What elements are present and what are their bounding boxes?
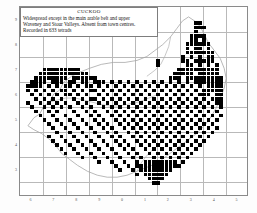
tetrad-dot bbox=[169, 76, 173, 80]
tetrad-dot bbox=[106, 93, 110, 97]
tetrad-dot bbox=[198, 110, 202, 114]
tetrad-dot bbox=[186, 47, 190, 51]
tetrad-dot bbox=[211, 131, 215, 135]
tetrad-dot bbox=[76, 84, 80, 88]
tetrad-dot bbox=[135, 164, 139, 168]
tetrad-dot bbox=[152, 156, 156, 160]
y-axis-tick-label: 7 bbox=[8, 67, 17, 72]
tetrad-dot bbox=[202, 42, 206, 46]
tetrad-dot bbox=[114, 101, 118, 105]
tetrad-dot bbox=[131, 135, 135, 139]
tetrad-dot bbox=[190, 38, 194, 42]
tetrad-dot bbox=[85, 76, 89, 80]
tetrad-dot bbox=[202, 72, 206, 76]
tetrad-dot bbox=[152, 164, 156, 168]
tetrad-dot bbox=[76, 68, 80, 72]
tetrad-dot bbox=[127, 131, 131, 135]
tetrad-dot bbox=[68, 143, 72, 147]
tetrad-dot bbox=[190, 34, 194, 38]
tetrad-dot bbox=[114, 139, 118, 143]
tetrad-dot bbox=[51, 139, 55, 143]
tetrad-dot bbox=[202, 139, 206, 143]
tetrad-dot bbox=[123, 139, 127, 143]
x-axis-tick-label: 2 bbox=[163, 197, 173, 202]
tetrad-dot bbox=[148, 135, 152, 139]
tetrad-dot bbox=[131, 93, 135, 97]
tetrad-dot bbox=[177, 76, 181, 80]
y-axis-tick-label: 3 bbox=[8, 167, 17, 172]
tetrad-dot bbox=[127, 105, 131, 109]
tetrad-dot bbox=[173, 135, 177, 139]
tetrad-dot bbox=[202, 26, 206, 30]
tetrad-dot bbox=[110, 126, 114, 130]
tetrad-dot bbox=[194, 47, 198, 51]
tetrad-dot bbox=[219, 93, 223, 97]
tetrad-dot bbox=[76, 76, 80, 80]
tetrad-dot bbox=[123, 101, 127, 105]
tetrad-dot bbox=[215, 110, 219, 114]
tetrad-dot bbox=[64, 72, 68, 76]
tetrad-dot bbox=[131, 118, 135, 122]
tetrad-dot bbox=[156, 93, 160, 97]
tetrad-dot bbox=[207, 84, 211, 88]
tetrad-dot bbox=[148, 143, 152, 147]
x-axis-tick-label: 4 bbox=[209, 197, 219, 202]
tetrad-dot bbox=[114, 84, 118, 88]
tetrad-dot bbox=[190, 101, 194, 105]
tetrad-dot bbox=[177, 72, 181, 76]
tetrad-dot bbox=[144, 139, 148, 143]
tetrad-dot bbox=[68, 68, 72, 72]
tetrad-dot bbox=[190, 143, 194, 147]
tetrad-dot bbox=[169, 156, 173, 160]
tetrad-dot bbox=[190, 76, 194, 80]
tetrad-dot bbox=[60, 97, 64, 101]
tetrad-dot bbox=[152, 147, 156, 151]
tetrad-dot bbox=[186, 114, 190, 118]
tetrad-dot bbox=[127, 89, 131, 93]
tetrad-dot bbox=[215, 76, 219, 80]
tetrad-dot bbox=[60, 76, 64, 80]
tetrad-dot bbox=[89, 152, 93, 156]
tetrad-dot bbox=[93, 89, 97, 93]
tetrad-dot bbox=[215, 101, 219, 105]
tetrad-dot bbox=[173, 84, 177, 88]
tetrad-dot bbox=[160, 122, 164, 126]
tetrad-dot bbox=[118, 114, 122, 118]
tetrad-dot bbox=[144, 173, 148, 177]
tetrad-dot bbox=[186, 76, 190, 80]
tetrad-dot bbox=[152, 173, 156, 177]
tetrad-dot bbox=[55, 143, 59, 147]
tetrad-dot bbox=[202, 122, 206, 126]
tetrad-dot bbox=[198, 76, 202, 80]
tetrad-dot bbox=[97, 135, 101, 139]
tetrad-dot bbox=[169, 80, 173, 84]
tetrad-dot bbox=[81, 131, 85, 135]
tetrad-dot bbox=[47, 68, 51, 72]
tetrad-dot bbox=[102, 105, 106, 109]
x-axis-tick-label: 9 bbox=[94, 197, 104, 202]
tetrad-dot bbox=[202, 34, 206, 38]
tetrad-dot bbox=[68, 80, 72, 84]
tetrad-dot bbox=[60, 89, 64, 93]
tetrad-dot bbox=[202, 76, 206, 80]
tetrad-dot bbox=[207, 118, 211, 122]
tetrad-dot bbox=[156, 168, 160, 172]
tetrad-dot bbox=[160, 80, 164, 84]
tetrad-dot bbox=[64, 84, 68, 88]
tetrad-dot bbox=[186, 42, 190, 46]
tetrad-dot bbox=[173, 72, 177, 76]
tetrad-dot bbox=[51, 72, 55, 76]
tetrad-dot bbox=[72, 76, 76, 80]
tetrad-dot bbox=[139, 84, 143, 88]
tetrad-dot bbox=[156, 143, 160, 147]
tetrad-dot bbox=[152, 181, 156, 185]
tetrad-dot bbox=[139, 168, 143, 172]
tetrad-dot bbox=[207, 72, 211, 76]
tetrad-dot bbox=[144, 97, 148, 101]
tetrad-dot bbox=[114, 131, 118, 135]
tetrad-dot bbox=[47, 84, 51, 88]
tetrad-dot bbox=[114, 152, 118, 156]
distribution-map-figure: CUCKOO Widespread except in the main ara… bbox=[0, 0, 257, 213]
tetrad-dot bbox=[81, 72, 85, 76]
tetrad-dot bbox=[215, 126, 219, 130]
